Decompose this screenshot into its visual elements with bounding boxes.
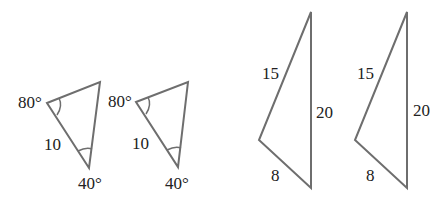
- triangles-diagram: 80° 10 40° 80° 10 40° 15 20 8 15 20 8: [0, 0, 445, 201]
- angle-label-80: 80°: [18, 93, 42, 112]
- angle-label-40: 40°: [78, 174, 102, 193]
- angle-arc-40: [78, 148, 92, 151]
- side-label-8: 8: [271, 166, 280, 185]
- side-label-20: 20: [316, 103, 333, 122]
- side-label-10: 10: [132, 134, 149, 153]
- side-label-20: 20: [413, 101, 430, 120]
- angle-label-80: 80°: [108, 92, 132, 111]
- side-label-15: 15: [357, 64, 374, 83]
- angle-arc-80: [57, 98, 61, 115]
- side-label-8: 8: [366, 166, 375, 185]
- angle-arc-40: [167, 147, 181, 150]
- angle-label-40: 40°: [165, 174, 189, 193]
- side-label-10: 10: [44, 135, 61, 154]
- triangle-asa-2: 80° 10 40°: [108, 82, 189, 193]
- triangle-outline: [47, 82, 100, 168]
- angle-arc-80: [146, 97, 150, 114]
- side-label-15: 15: [262, 64, 279, 83]
- triangle-sss-2: 15 20 8: [355, 12, 430, 188]
- triangle-asa-1: 80° 10 40°: [18, 82, 102, 193]
- triangle-outline: [355, 12, 407, 188]
- triangle-sss-1: 15 20 8: [259, 12, 333, 188]
- triangle-outline: [136, 82, 188, 167]
- triangle-outline: [259, 12, 311, 188]
